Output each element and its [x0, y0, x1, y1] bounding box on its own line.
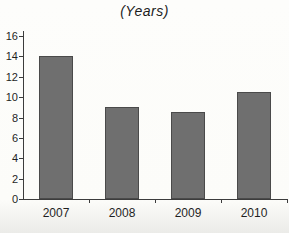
y-tick-mark [19, 138, 23, 139]
x-tick-mark [221, 199, 222, 203]
y-axis-line [23, 31, 24, 200]
bar-chart-figure: (Years) 0246810121416 2007200820092010 [0, 0, 289, 233]
y-tick-label: 6 [0, 133, 18, 144]
bar-2009 [171, 112, 205, 199]
x-tick-label: 2008 [92, 206, 152, 220]
x-tick-label: 2010 [224, 206, 284, 220]
y-tick-label: 8 [0, 113, 18, 124]
x-tick-mark [287, 199, 288, 203]
y-tick-label: 10 [0, 92, 18, 103]
y-tick-label: 4 [0, 153, 18, 164]
x-tick-label: 2007 [26, 206, 86, 220]
y-tick-label: 14 [0, 51, 18, 62]
y-tick-mark [19, 199, 23, 200]
x-tick-mark [89, 199, 90, 203]
y-tick-mark [19, 179, 23, 180]
y-tick-mark [19, 97, 23, 98]
y-tick-label: 2 [0, 174, 18, 185]
x-tick-label: 2009 [158, 206, 218, 220]
x-tick-mark [155, 199, 156, 203]
y-tick-mark [19, 36, 23, 37]
y-tick-mark [19, 56, 23, 57]
bar-2010 [237, 92, 271, 199]
chart-title: (Years) [0, 3, 289, 19]
y-tick-label: 12 [0, 72, 18, 83]
bar-2008 [105, 107, 139, 199]
y-tick-mark [19, 77, 23, 78]
y-tick-mark [19, 158, 23, 159]
y-tick-label: 0 [0, 194, 18, 205]
y-tick-label: 16 [0, 31, 18, 42]
bar-2007 [39, 56, 73, 199]
y-tick-mark [19, 118, 23, 119]
